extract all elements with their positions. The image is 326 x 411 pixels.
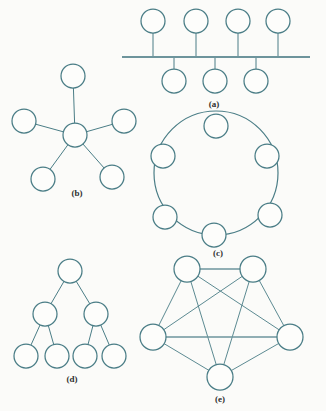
star-leaf-node (112, 109, 136, 133)
ring-node (153, 205, 177, 229)
panel-star-topology: (b) (12, 64, 136, 198)
tree-leaf-node (73, 344, 97, 368)
bus-stems (153, 33, 278, 69)
caption-ring: (c) (213, 248, 223, 258)
network-topologies-figure: (a) (b) (c) (0, 0, 326, 411)
ring-node (151, 144, 175, 168)
bus-node (203, 69, 227, 93)
mesh-node (277, 324, 303, 350)
star-leaf-node (31, 167, 55, 191)
star-leaf-node (12, 109, 36, 133)
mesh-node (207, 364, 233, 390)
panel-mesh-topology: (e) (140, 256, 303, 404)
mesh-node (174, 256, 200, 282)
caption-star: (b) (72, 188, 83, 198)
tree-leaf-node (45, 344, 69, 368)
ring-node (204, 114, 228, 138)
mesh-edge-tl-b (187, 269, 220, 377)
panel-bus-topology: (a) (122, 9, 310, 109)
bus-node (266, 9, 290, 33)
caption-tree: (d) (67, 374, 78, 384)
star-hub-node (63, 123, 87, 147)
bus-node (184, 9, 208, 33)
caption-bus: (a) (209, 99, 220, 109)
figure-page: (a) (b) (c) (0, 0, 326, 411)
tree-leaf-node (102, 344, 126, 368)
mesh-node (140, 324, 166, 350)
tree-root-node (58, 259, 82, 283)
tree-branch-node (33, 302, 57, 326)
bus-node (226, 9, 250, 33)
mesh-node (240, 256, 266, 282)
panel-ring-topology: (c) (151, 111, 282, 258)
panel-tree-topology: (d) (14, 259, 126, 384)
tree-leaf-node (14, 344, 38, 368)
star-leaf-node (61, 64, 85, 88)
bus-node (162, 69, 186, 93)
caption-mesh: (e) (215, 394, 225, 404)
ring-node (202, 223, 226, 247)
ring-node (255, 144, 279, 168)
tree-branch-node (84, 302, 108, 326)
ring-node (258, 203, 282, 227)
star-leaf-node (100, 165, 124, 189)
bus-node (141, 9, 165, 33)
bus-node (244, 69, 268, 93)
